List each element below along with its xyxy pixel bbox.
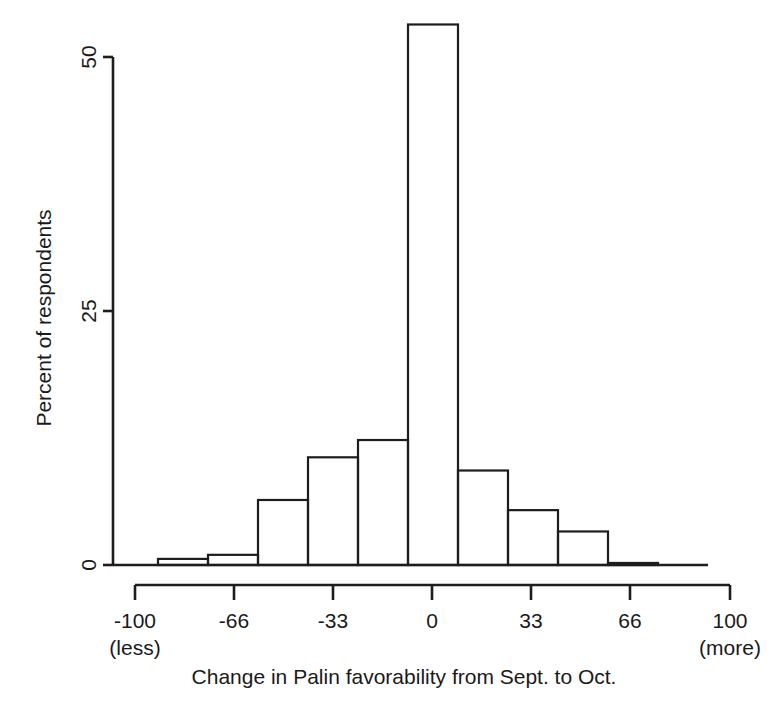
chart-page: 50 25 0 Percent of respondents bbox=[0, 0, 782, 703]
y-tick-label-50: 50 bbox=[77, 45, 100, 68]
y-axis-title: Percent of respondents bbox=[32, 209, 55, 426]
x-tick-label--100: -100 bbox=[114, 609, 156, 632]
x-tick-label-66: 66 bbox=[618, 609, 641, 632]
histogram-bar bbox=[458, 471, 508, 565]
histogram-bar bbox=[258, 500, 308, 565]
histogram-bar bbox=[558, 531, 608, 565]
x-tick-label-100: 100 bbox=[712, 609, 747, 632]
histogram-bar bbox=[508, 510, 558, 565]
histogram-bar bbox=[308, 457, 358, 565]
x-tick-sublabel-more: (more) bbox=[699, 636, 761, 659]
y-tick-label-0: 0 bbox=[77, 559, 100, 571]
histogram-bar bbox=[158, 559, 208, 565]
histogram-bar bbox=[608, 563, 658, 565]
histogram-bar bbox=[208, 555, 258, 565]
histogram-bar bbox=[408, 24, 458, 565]
y-tick-label-25: 25 bbox=[77, 299, 100, 322]
x-axis-group: -100 -66 -33 0 33 66 100 (less) (more) C… bbox=[109, 585, 761, 688]
histogram-bars bbox=[158, 24, 658, 565]
x-axis-title: Change in Palin favorability from Sept. … bbox=[192, 665, 617, 688]
x-tick-label--66: -66 bbox=[219, 609, 249, 632]
histogram-bar bbox=[358, 440, 408, 565]
histogram-figure: 50 25 0 Percent of respondents bbox=[0, 0, 782, 703]
x-tick-sublabel-less: (less) bbox=[109, 636, 160, 659]
x-tick-label-33: 33 bbox=[519, 609, 542, 632]
x-tick-label--33: -33 bbox=[318, 609, 348, 632]
y-axis-group: 50 25 0 Percent of respondents bbox=[32, 45, 113, 571]
x-tick-label-0: 0 bbox=[426, 609, 438, 632]
